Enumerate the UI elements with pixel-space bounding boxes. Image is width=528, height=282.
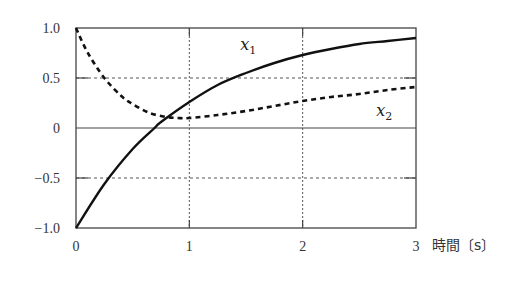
x-tick-label: 2 bbox=[299, 239, 306, 254]
y-tick-label: −0.5 bbox=[35, 171, 60, 186]
series-label-x1: x1 bbox=[240, 35, 256, 57]
x-tick-label: 0 bbox=[73, 239, 80, 254]
series-x1 bbox=[76, 38, 416, 228]
x-tick-label: 3 bbox=[413, 239, 420, 254]
y-tick-label: 1.0 bbox=[43, 21, 61, 36]
y-tick-label: 0 bbox=[53, 121, 60, 136]
tick-labels: 01231.00.50−0.5−1.0 bbox=[35, 21, 420, 254]
series-label-x2: x2 bbox=[376, 101, 392, 123]
plot-frame bbox=[76, 28, 416, 228]
x-tick-label: 1 bbox=[186, 239, 193, 254]
y-tick-label: −1.0 bbox=[35, 221, 60, 236]
line-chart: 01231.00.50−0.5−1.0 x1x2 時間〔s〕 bbox=[0, 0, 528, 282]
y-tick-label: 0.5 bbox=[43, 71, 61, 86]
series-labels: x1x2 bbox=[240, 35, 392, 123]
x-axis-label: 時間〔s〕 bbox=[432, 237, 495, 253]
